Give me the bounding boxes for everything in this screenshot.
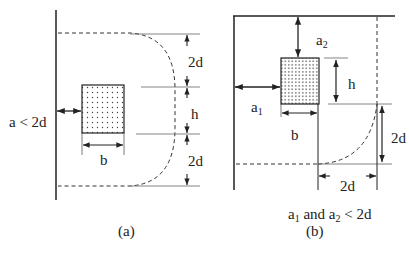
panel-b: a2 a1 h b 2d 2d a1 and a2 < 2d (b) (233, 16, 407, 240)
condition-b: a1 and a2 < 2d (288, 206, 372, 224)
critical-perimeter-dashed (318, 104, 377, 164)
label-bottom-2d: 2d (188, 153, 204, 169)
label-a1: a1 (251, 99, 263, 117)
label-horizontal-2d: 2d (340, 178, 356, 194)
label-a2: a2 (316, 32, 328, 50)
diagram-svg: 2d h 2d b a < 2d (a) (0, 0, 409, 257)
label-h: h (191, 106, 199, 122)
caption-b: (b) (306, 223, 324, 240)
column-rect (82, 85, 124, 133)
label-vertical-2d: 2d (391, 130, 407, 146)
column-rect (281, 58, 319, 104)
label-h: h (348, 76, 356, 92)
label-top-2d: 2d (188, 54, 204, 70)
label-b: b (100, 152, 108, 168)
label-b: b (291, 127, 299, 143)
condition-a: a < 2d (9, 114, 47, 130)
figure-canvas: 2d h 2d b a < 2d (a) (0, 0, 409, 257)
caption-a: (a) (118, 223, 135, 240)
panel-a: 2d h 2d b a < 2d (a) (9, 10, 204, 240)
